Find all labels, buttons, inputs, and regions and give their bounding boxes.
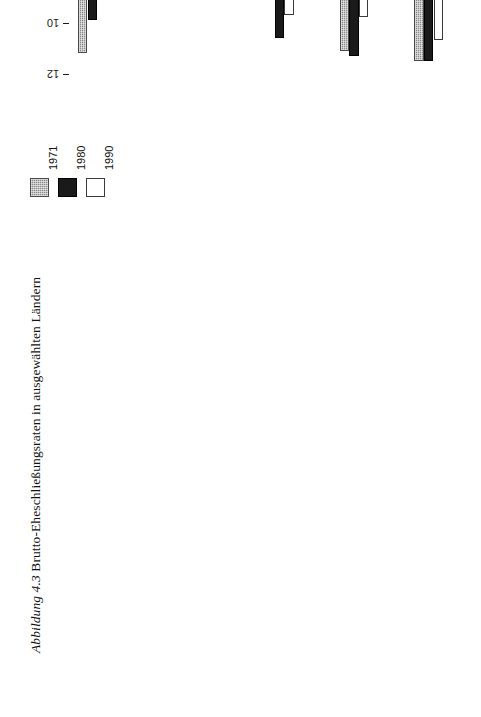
- bar-1990: [284, 0, 293, 15]
- bar-group: Korea: [265, 0, 294, 481]
- bar-group: Mexiko: [190, 0, 219, 481]
- bar-group: Brasilien: [153, 0, 182, 481]
- bar-1990: [359, 0, 368, 17]
- bar-1971: [414, 0, 423, 61]
- bar-1980: [349, 0, 358, 56]
- bar-group: Ägypten: [78, 0, 107, 481]
- axis-tick-label: 10: [38, 17, 68, 29]
- axis-tick-label: 12: [38, 68, 68, 80]
- legend-label-1980: 1980: [72, 114, 91, 170]
- bar-group: Algerien: [115, 0, 144, 481]
- bar-group: Spanien: [377, 0, 406, 481]
- bar-1971: [340, 0, 349, 51]
- bar-group: USA: [414, 0, 443, 481]
- legend: 197119801990: [30, 120, 114, 232]
- bar-group: UdSSR: [340, 0, 369, 481]
- chart-area: 024681012 KanadaFrankreichBundesrepublik…: [0, 0, 481, 717]
- plot-region: 024681012 KanadaFrankreichBundesrepublik…: [236, 0, 481, 481]
- bar-1971: [78, 0, 87, 53]
- bar-1980: [88, 0, 97, 20]
- bar-group: Indonesien: [302, 0, 331, 481]
- bar-1980: [275, 0, 284, 38]
- bar-group: VereinigtesKönigreich: [452, 0, 481, 481]
- legend-label-1971: 1971: [44, 114, 63, 170]
- bar-group: Argentinien: [227, 0, 256, 481]
- bar-1990: [434, 0, 443, 40]
- legend-label-1990: 1990: [100, 114, 119, 170]
- bar-1980: [424, 0, 433, 61]
